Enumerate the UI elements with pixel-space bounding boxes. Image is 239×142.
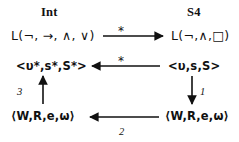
arrow-label-middle-star: * <box>118 54 124 68</box>
commutative-diagram: Int S4 L(¬, →, ∧, ∨) L(¬,∧,□) <υ*,s*,S*>… <box>0 0 239 142</box>
arrow-label-left-3: 3 <box>17 86 22 97</box>
arrow-label-top-star: * <box>118 24 124 38</box>
arrow-label-right-1: 1 <box>200 86 205 97</box>
arrow-label-bottom-2: 2 <box>119 126 124 137</box>
arrow-layer <box>0 0 239 142</box>
